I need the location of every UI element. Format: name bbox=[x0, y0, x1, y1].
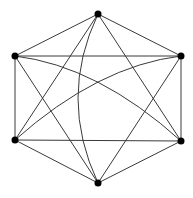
edge-top-lower-left bbox=[15, 14, 98, 140]
edge-top-upper-right bbox=[98, 14, 181, 56]
edge-lower-left-bottom bbox=[15, 140, 98, 183]
edge-bottom-upper-left bbox=[15, 56, 98, 183]
edge-bottom-upper-right bbox=[98, 56, 181, 183]
graph-vertices bbox=[12, 11, 185, 187]
graph-edges bbox=[15, 14, 181, 183]
vertex-bottom bbox=[95, 180, 102, 187]
edge-lower-right-bottom bbox=[98, 141, 181, 183]
edge-lower-left-lower-right bbox=[15, 140, 181, 141]
edge-upper-left-lower-right bbox=[15, 56, 181, 141]
vertex-top bbox=[95, 11, 102, 18]
edge-top-upper-left bbox=[15, 14, 98, 56]
vertex-lower-left bbox=[12, 137, 19, 144]
vertex-upper-left bbox=[12, 53, 19, 60]
edge-lower-left-upper-right bbox=[15, 56, 181, 140]
vertex-lower-right bbox=[178, 138, 185, 145]
edge-top-lower-right bbox=[98, 14, 181, 141]
k6-graph-diagram bbox=[0, 0, 193, 198]
vertex-upper-right bbox=[178, 53, 185, 60]
